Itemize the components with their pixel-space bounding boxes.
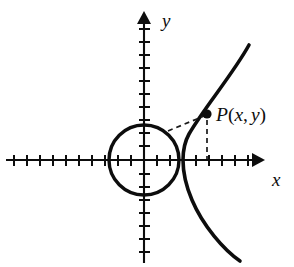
point-p-comma: , bbox=[243, 104, 248, 125]
hyperbola-right-branch bbox=[183, 45, 249, 261]
y-axis-label: y bbox=[160, 10, 171, 31]
point-p-label: P(x,y) bbox=[215, 104, 266, 126]
axes-group bbox=[6, 11, 265, 263]
x-axis-label: x bbox=[271, 169, 281, 190]
y-axis-arrowhead bbox=[137, 11, 151, 24]
point-p-letter: P bbox=[215, 104, 228, 125]
point-p-var-y: y bbox=[249, 104, 260, 125]
x-axis-arrowhead bbox=[252, 153, 265, 167]
point-p-close-paren: ) bbox=[260, 104, 267, 126]
figure-container: y x P(x,y) bbox=[0, 0, 294, 267]
point-p-dot bbox=[202, 109, 211, 118]
conic-sections-diagram: y x P(x,y) bbox=[0, 0, 294, 267]
point-p-var-x: x bbox=[233, 104, 243, 125]
